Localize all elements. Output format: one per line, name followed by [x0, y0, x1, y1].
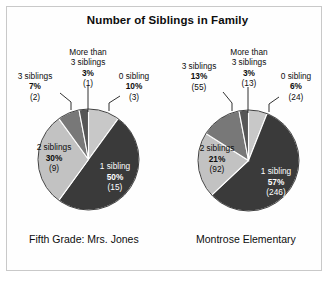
- label-text: 2 siblings: [200, 143, 235, 153]
- label-count: (55): [172, 82, 226, 92]
- label-left-2-siblings: 2 siblings 30% (9): [26, 142, 82, 174]
- label-text: 0 sibling: [110, 71, 158, 81]
- label-percent: 10%: [110, 81, 158, 91]
- label-text: More than: [216, 47, 282, 57]
- label-count: (15): [108, 182, 123, 192]
- label-left-3-siblings: 3 siblings 7% (2): [9, 71, 61, 102]
- label-percent: 57%: [250, 177, 302, 188]
- label-percent: 50%: [91, 172, 139, 183]
- label-text: 0 sibling: [272, 71, 320, 81]
- label-text: 3 siblings: [55, 57, 121, 67]
- label-text: 3 siblings: [172, 61, 226, 71]
- label-count: (24): [272, 92, 320, 102]
- label-left-1-sibling: 1 sibling 50% (15): [91, 161, 139, 193]
- label-percent: 30%: [26, 153, 82, 164]
- label-text: 3 siblings: [9, 71, 61, 81]
- label-text: More than: [55, 47, 121, 57]
- label-right-1-sibling: 1 sibling 57% (246): [250, 166, 302, 198]
- label-left-0-sibling: 0 sibling 10% (3): [110, 71, 158, 102]
- label-right-3-siblings: 3 siblings 13% (55): [172, 61, 226, 92]
- label-percent: 7%: [9, 81, 61, 91]
- label-percent: 6%: [272, 81, 320, 91]
- label-right-0-sibling: 0 sibling 6% (24): [272, 71, 320, 102]
- caption-fifth-grade: Fifth Grade: Mrs. Jones: [29, 233, 139, 245]
- label-count: (246): [266, 187, 285, 197]
- label-count: (9): [49, 163, 59, 173]
- label-percent: 21%: [189, 154, 245, 165]
- label-text: 1 sibling: [100, 161, 130, 171]
- chart-title: Number of Siblings in Family: [0, 14, 335, 26]
- label-text: 2 siblings: [37, 142, 72, 152]
- label-right-2-siblings: 2 siblings 21% (92): [189, 143, 245, 175]
- label-count: (3): [110, 92, 158, 102]
- label-count: (92): [210, 164, 225, 174]
- label-text: 1 sibling: [261, 166, 291, 176]
- caption-montrose: Montrose Elementary: [196, 233, 296, 245]
- label-percent: 13%: [172, 71, 226, 81]
- label-count: (2): [9, 92, 61, 102]
